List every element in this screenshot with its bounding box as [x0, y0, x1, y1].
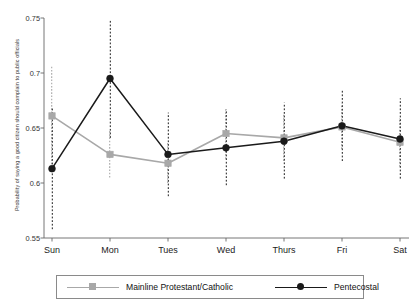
x-axis-tick-label-tues: Tues	[158, 245, 178, 255]
x-axis-tick-label-thurs: Thurs	[272, 245, 295, 255]
legend-square-marker-icon	[89, 283, 96, 290]
legend-item-mainline: Mainline Protestant/Catholic	[67, 282, 233, 292]
x-axis-tick-label-sat: Sat	[393, 245, 407, 255]
legend-swatch-pentecostal	[275, 282, 327, 292]
legend-label-mainline: Mainline Protestant/Catholic	[126, 282, 233, 292]
x-axis-tick-label-fri: Fri	[337, 245, 348, 255]
chart-container: 0.750.70.650.60.55 Probability of saying…	[0, 0, 419, 306]
plot-area	[0, 0, 419, 306]
x-axis-tick-label-mon: Mon	[101, 245, 119, 255]
legend-item-pentecostal: Pentecostal	[275, 282, 379, 292]
x-axis-tick-label-wed: Wed	[217, 245, 235, 255]
chart-legend: Mainline Protestant/Catholic Pentecostal	[56, 275, 364, 299]
x-axis-tick-label-sun: Sun	[44, 245, 60, 255]
legend-swatch-mainline	[67, 282, 119, 292]
legend-circle-marker-icon	[297, 283, 304, 290]
legend-label-pentecostal: Pentecostal	[334, 282, 379, 292]
